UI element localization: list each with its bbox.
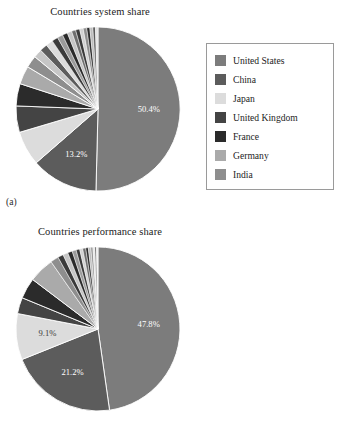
legend-row[interactable]: United States (215, 51, 333, 70)
pie-svg-b: 47.8%21.2%9.1% (15, 246, 181, 412)
pie-slice-label: 9.1% (38, 328, 56, 338)
legend-swatch-icon (215, 112, 226, 123)
legend-label: Germany (233, 151, 269, 161)
legend-row[interactable]: France (215, 127, 333, 146)
legend-row[interactable]: United Kingdom (215, 108, 333, 127)
pie-slice-label: 13.2% (65, 149, 87, 159)
legend-label: France (233, 132, 259, 142)
legend-row[interactable]: China (215, 70, 333, 89)
pie-slice-label: 50.4% (138, 104, 160, 114)
legend-label: China (233, 75, 256, 85)
figure-panel-b: Countries performance share 47.8%21.2%9.… (0, 220, 341, 440)
legend-label: Japan (233, 94, 255, 104)
legend-row[interactable]: Japan (215, 89, 333, 108)
legend-swatch-icon (215, 55, 226, 66)
legend-swatch-icon (215, 131, 226, 142)
pie-chart-countries-performance-share: 47.8%21.2%9.1% (15, 246, 181, 412)
legend-row[interactable]: India (215, 165, 333, 184)
legend-row[interactable]: Germany (215, 146, 333, 165)
legend-swatch-icon (215, 150, 226, 161)
legend-label: United Kingdom (233, 113, 298, 123)
chart-title-a: Countries system share (0, 6, 200, 17)
figure-panel-a: Countries system share 50.4%13.2% United… (0, 0, 341, 220)
pie-slice-label: 21.2% (61, 367, 83, 377)
pie-slice-label: 47.8% (138, 319, 160, 329)
legend-label: United States (233, 56, 284, 66)
pie-svg-a: 50.4%13.2% (15, 26, 181, 192)
legend-swatch-icon (215, 169, 226, 180)
legend-swatch-icon (215, 93, 226, 104)
legend-a: United StatesChinaJapanUnited KingdomFra… (206, 43, 334, 190)
legend-swatch-icon (215, 74, 226, 85)
pie-chart-countries-system-share: 50.4%13.2% (15, 26, 181, 192)
legend-label: India (233, 170, 253, 180)
chart-title-b: Countries performance share (0, 226, 200, 237)
panel-tag-a: (a) (6, 196, 17, 207)
